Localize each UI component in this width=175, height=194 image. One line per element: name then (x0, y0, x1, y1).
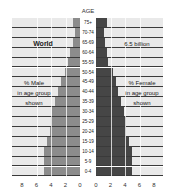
age-group-label: 65-69 (80, 38, 96, 47)
row-background-male (12, 18, 80, 28)
male-axis-label-1: % Male (12, 80, 56, 86)
age-group-label: 35-39 (80, 97, 96, 106)
age-group-label: 10-14 (80, 147, 96, 156)
male-bar (55, 97, 80, 106)
male-bar (44, 157, 80, 166)
x-tick-left: 2 (61, 182, 71, 188)
female-bar (96, 28, 104, 37)
male-bar (65, 68, 80, 77)
age-group-label: 55-59 (80, 58, 96, 67)
female-bar (96, 97, 121, 106)
population-total: 6.5 billion (112, 41, 162, 47)
age-group-label: 15-19 (80, 137, 96, 146)
age-group-label: 20-24 (80, 127, 96, 136)
age-group-label: 70-74 (80, 28, 96, 37)
x-tick-right: 6 (135, 182, 145, 188)
male-bar (58, 87, 80, 96)
female-bar (96, 18, 107, 27)
female-axis-label-1: % Female (120, 80, 164, 86)
male-bar (44, 147, 80, 156)
age-group-label: 25-29 (80, 117, 96, 126)
age-axis-title: AGE (80, 8, 96, 14)
male-bar (70, 48, 80, 57)
female-bar (96, 48, 107, 57)
female-bar (96, 147, 132, 156)
x-tick-left: 4 (46, 182, 56, 188)
female-bar (96, 137, 129, 146)
x-tick-left: 6 (32, 182, 42, 188)
female-bar (96, 167, 132, 176)
region-title: World (18, 40, 68, 47)
female-bar (96, 38, 105, 47)
male-bar (73, 38, 80, 47)
female-bar (96, 77, 116, 86)
male-bar (44, 167, 80, 176)
age-group-label: 60-64 (80, 48, 96, 57)
population-pyramid-chart: AGE 75+70-7465-6960-6455-5950-5445-4940-… (0, 0, 175, 194)
male-bar (61, 77, 80, 86)
x-tick-left: 0 (75, 182, 85, 188)
row-background-female (96, 28, 163, 38)
female-bar (96, 58, 108, 67)
x-tick-right: 0 (91, 182, 101, 188)
x-tick-right: 4 (120, 182, 130, 188)
female-axis-label-2: in age group (120, 90, 164, 96)
x-tick-right: 8 (149, 182, 159, 188)
age-group-label: 75+ (80, 18, 96, 27)
female-bar (96, 87, 118, 96)
male-bar (68, 58, 80, 67)
row-background-male (12, 28, 80, 38)
male-axis-label-2: in age group (12, 90, 56, 96)
male-bar (73, 18, 80, 27)
x-tick-right: 2 (106, 182, 116, 188)
age-group-label: 40-44 (80, 87, 96, 96)
female-bar (96, 157, 132, 166)
age-group-label: 0-4 (80, 167, 96, 176)
age-group-label: 50-54 (80, 68, 96, 77)
age-group-label: 5-9 (80, 157, 96, 166)
age-group-label: 45-49 (80, 77, 96, 86)
female-axis-label-3: shown (120, 100, 164, 106)
age-group-label: 30-34 (80, 107, 96, 116)
x-tick-left: 8 (17, 182, 27, 188)
male-axis-label-3: shown (12, 100, 56, 106)
